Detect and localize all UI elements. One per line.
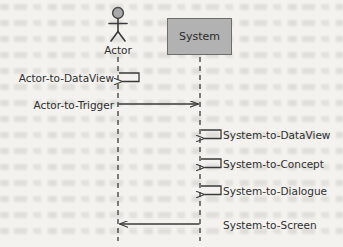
actor-leg-left [111,32,118,42]
message-label-actor-to-dataview: Actor-to-DataView [4,72,114,84]
message-arrow-system-to-dialogue[interactable] [201,186,221,195]
sequence-diagram-canvas: System Actor [0,0,343,247]
message-label-system-to-screen: System-to-Screen [223,219,317,231]
message-label-actor-to-trigger: Actor-to-Trigger [4,99,114,111]
actor-head-icon [113,8,124,19]
message-arrow-system-to-dataview[interactable] [201,130,221,139]
message-arrow-actor-to-dataview[interactable] [119,73,139,82]
diagram-vector-layer [0,0,343,247]
actor-leg-right [118,32,125,42]
message-label-system-to-dataview: System-to-DataView [223,129,330,141]
message-label-system-to-concept: System-to-Concept [223,158,324,170]
actor-stick-figure[interactable] [109,8,127,41]
message-label-system-to-dialogue: System-to-Dialogue [223,185,327,197]
message-arrow-system-to-concept[interactable] [201,159,221,168]
